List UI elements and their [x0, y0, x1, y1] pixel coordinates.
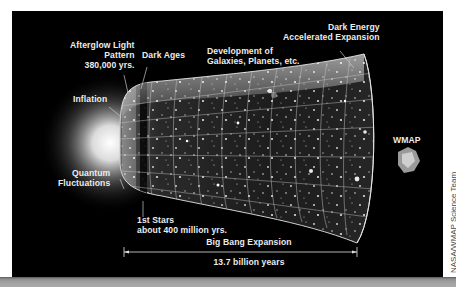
label-first-stars: 1st Stars about 400 million yrs.	[137, 215, 227, 235]
label-wmap: WMAP	[393, 135, 421, 145]
label-big-bang-expansion: Big Bang Expansion	[194, 237, 304, 247]
label-afterglow: Afterglow Light Pattern 380,000 yrs.	[70, 40, 135, 70]
label-dark-ages: Dark Ages	[142, 50, 185, 60]
label-dark-energy: Dark Energy Accelerated Expansion	[283, 22, 380, 42]
label-development: Development of Galaxies, Planets, etc.	[207, 46, 300, 66]
wmap-satellite-icon	[398, 147, 420, 173]
label-inflation: Inflation	[73, 94, 107, 104]
label-duration: 13.7 billion years	[194, 257, 304, 267]
image-credit: NASA/WMAP Science Team	[443, 11, 456, 277]
bottom-bar	[0, 277, 456, 287]
timeline-arrow	[124, 247, 357, 257]
universe-timeline-diagram: Afterglow Light Pattern 380,000 yrs. Dar…	[12, 11, 444, 277]
label-quantum-fluctuations: Quantum Fluctuations	[58, 168, 110, 188]
